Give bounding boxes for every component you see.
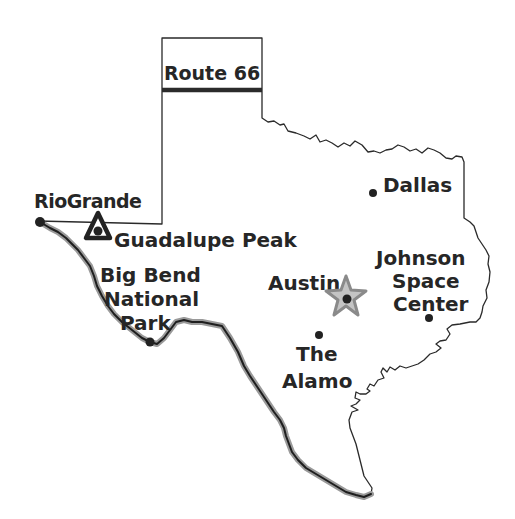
johnson-label-line1: Johnson (374, 246, 466, 270)
dallas-label: Dallas (383, 173, 452, 197)
mountain-triangle-icon (86, 213, 110, 238)
big-bend-label-line3: Park (120, 311, 171, 335)
texas-map: Route 66 RioGrande Guadalupe Peak Big Be… (0, 0, 515, 519)
johnson-label-line2: Space (392, 269, 460, 293)
alamo-label-line2: Alamo (282, 369, 352, 393)
alamo-dot-icon (315, 331, 323, 339)
big-bend-label-line2: National (104, 287, 199, 311)
rio-grande-dot-icon (35, 217, 45, 227)
rio-grande-label: RioGrande (34, 190, 142, 212)
dallas-dot-icon (369, 189, 377, 197)
guadalupe-peak-label: Guadalupe Peak (114, 228, 298, 252)
big-bend-label-line1: Big Bend (100, 263, 201, 287)
route-66-label: Route 66 (164, 62, 260, 84)
alamo-label-line1: The (296, 342, 337, 366)
johnson-label-line3: Center (393, 292, 469, 316)
johnson-dot-icon (425, 314, 433, 322)
big-bend-dot-icon (146, 338, 155, 347)
